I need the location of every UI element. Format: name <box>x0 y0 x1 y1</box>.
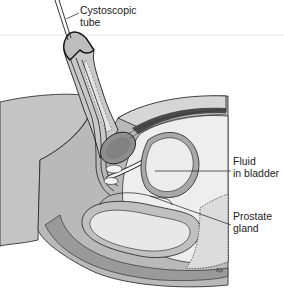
cystoscopy-diagram: Kp <box>0 0 284 296</box>
label-tube-line1: Cystoscopic <box>80 4 137 16</box>
cystoscopic-tube <box>55 0 68 40</box>
label-prostate-gland: Prostate gland <box>233 210 272 234</box>
artist-signature: Kp <box>215 267 223 273</box>
label-fluid-in-bladder: Fluid in bladder <box>233 155 279 179</box>
leader-tube <box>66 13 79 19</box>
vesicle-2 <box>104 178 118 185</box>
label-fluid-line1: Fluid <box>233 155 279 167</box>
label-fluid-line2: in bladder <box>233 167 279 179</box>
label-prostate-line1: Prostate <box>233 210 272 222</box>
vesicle-1 <box>106 165 122 173</box>
label-tube-line2: tube <box>80 16 137 28</box>
label-prostate-line2: gland <box>233 222 272 234</box>
label-cystoscopic-tube: Cystoscopic tube <box>80 4 137 28</box>
